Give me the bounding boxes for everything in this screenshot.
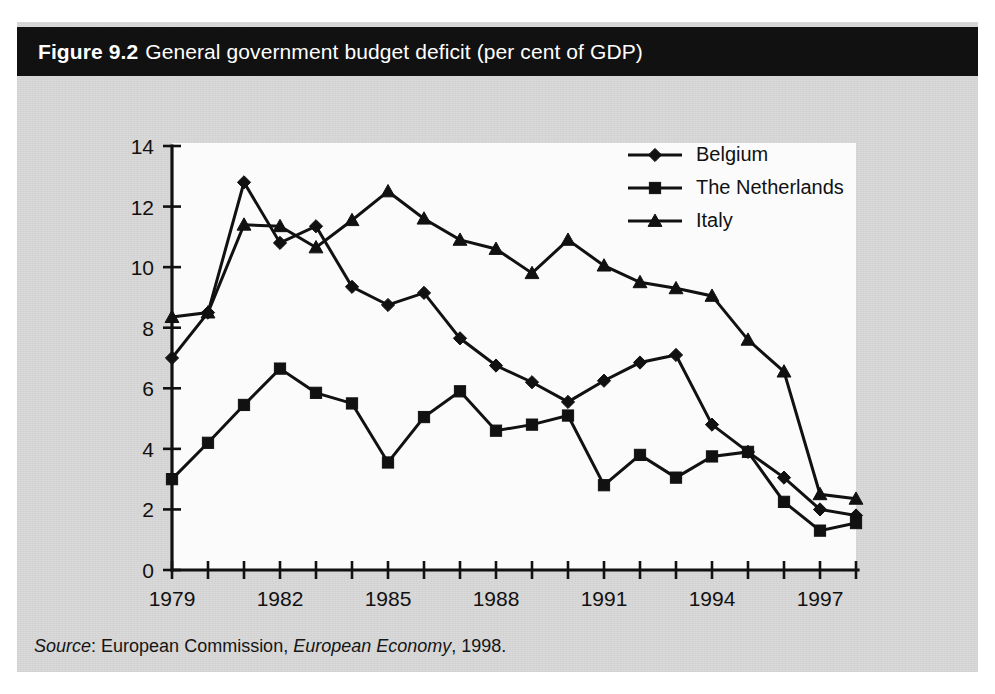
legend-marker-square <box>649 182 660 193</box>
data-point-square <box>274 363 285 374</box>
data-point-square <box>346 398 357 409</box>
data-point-square <box>850 517 861 528</box>
data-point-square <box>526 419 537 430</box>
x-axis-tick-labels: 1979198219851988199119941997 <box>149 587 844 610</box>
source-publisher: European Commission, <box>101 636 293 656</box>
figure-page: Figure 9.2General government budget defi… <box>0 0 995 694</box>
x-axis-tick-label: 1994 <box>689 587 736 610</box>
chart-canvas: 02468101214 1979198219851988199119941997… <box>0 0 995 694</box>
y-axis-tick-label: 4 <box>142 438 154 461</box>
y-axis-tick-labels: 02468101214 <box>131 135 155 582</box>
x-axis-tick-label: 1985 <box>365 587 412 610</box>
data-point-square <box>562 410 573 421</box>
x-axis-tick-label: 1988 <box>473 587 520 610</box>
data-point-square <box>634 449 645 460</box>
data-point-square <box>814 525 825 536</box>
legend-label: The Netherlands <box>696 176 844 198</box>
source-year: , 1998. <box>451 636 506 656</box>
data-point-square <box>778 496 789 507</box>
source-note: Source: European Commission, European Ec… <box>34 636 506 657</box>
source-publication: European Economy <box>293 636 451 656</box>
data-point-square <box>706 451 717 462</box>
y-axis-tick-label: 8 <box>142 317 154 340</box>
data-point-square <box>490 425 501 436</box>
y-axis-tick-label: 12 <box>131 196 154 219</box>
y-axis-tick-label: 14 <box>131 135 155 158</box>
source-separator: : <box>91 636 101 656</box>
data-point-square <box>202 437 213 448</box>
data-point-square <box>418 411 429 422</box>
data-point-square <box>454 386 465 397</box>
line-chart: 02468101214 1979198219851988199119941997… <box>0 0 995 694</box>
data-point-square <box>238 399 249 410</box>
y-axis-tick-label: 6 <box>142 377 154 400</box>
y-axis-tick-label: 10 <box>131 256 154 279</box>
y-axis-tick-label: 2 <box>142 498 154 521</box>
data-point-square <box>742 446 753 457</box>
x-axis-tick-label: 1997 <box>797 587 844 610</box>
plot-background <box>172 143 856 570</box>
data-point-square <box>382 457 393 468</box>
x-axis-tick-label: 1991 <box>581 587 628 610</box>
data-point-square <box>670 472 681 483</box>
legend-label: Belgium <box>696 143 768 165</box>
legend-label: Italy <box>696 209 733 231</box>
x-axis-tick-label: 1979 <box>149 587 196 610</box>
data-point-square <box>310 387 321 398</box>
data-point-square <box>166 474 177 485</box>
y-axis-tick-label: 0 <box>142 559 154 582</box>
data-point-square <box>598 480 609 491</box>
source-prefix: Source <box>34 636 91 656</box>
x-axis-tick-label: 1982 <box>257 587 304 610</box>
